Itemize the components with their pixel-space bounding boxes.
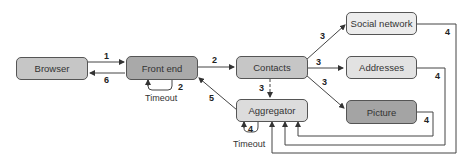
contacts-node: Contacts xyxy=(236,56,308,79)
aggregator-timeout-label: Timeout xyxy=(233,139,265,149)
contacts-label: Contacts xyxy=(253,62,291,73)
front-end-node: Front end xyxy=(126,56,198,80)
edge-label-front-to-browser: 6 xyxy=(104,75,109,85)
edge-label-front-timeout: 2 xyxy=(178,82,183,92)
front-timeout-label: Timeout xyxy=(145,93,177,103)
edge-label-browser-to-front: 1 xyxy=(104,51,109,61)
aggregator-node: Aggregator xyxy=(236,99,308,122)
edge-label-contacts-to-aggregator: 3 xyxy=(259,83,264,93)
social-network-label: Social network xyxy=(351,18,413,29)
browser-label: Browser xyxy=(35,63,70,74)
addresses-label: Addresses xyxy=(359,62,404,73)
picture-node: Picture xyxy=(346,100,417,124)
edge-label-aggregator-to-front: 5 xyxy=(209,93,214,103)
edge-label-contacts-to-social: 3 xyxy=(320,31,325,41)
front-end-label: Front end xyxy=(142,63,183,74)
edge-label-picture-to-aggregator: 4 xyxy=(424,115,429,125)
edge-label-social-to-aggregator: 4 xyxy=(445,27,450,37)
edge-label-contacts-to-picture: 3 xyxy=(322,77,327,87)
edge-label-aggregator-timeout: 4 xyxy=(248,124,253,134)
edge-label-front-to-contacts: 2 xyxy=(212,55,217,65)
aggregator-label: Aggregator xyxy=(248,105,295,116)
social-network-node: Social network xyxy=(346,12,417,35)
browser-node: Browser xyxy=(16,57,88,80)
edge-label-contacts-to-addresses: 3 xyxy=(316,57,321,67)
picture-label: Picture xyxy=(367,107,397,118)
addresses-node: Addresses xyxy=(346,56,417,79)
edge-label-addresses-to-aggregator: 4 xyxy=(435,71,440,81)
